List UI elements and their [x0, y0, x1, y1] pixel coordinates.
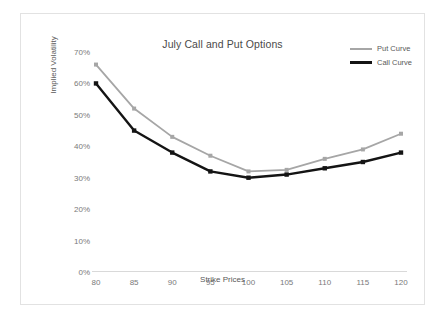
data-point-call-curve	[208, 169, 212, 173]
data-point-call-curve	[284, 172, 288, 176]
series-line-call-curve	[96, 83, 401, 177]
y-tick-label: 10%	[74, 236, 90, 245]
x-axis-title: Strike Prices	[21, 275, 424, 284]
y-tick-label: 60%	[74, 79, 90, 88]
data-point-put-curve	[247, 169, 251, 173]
y-tick-label: 50%	[74, 110, 90, 119]
data-point-call-curve	[246, 176, 250, 180]
data-point-call-curve	[132, 128, 136, 132]
data-point-put-curve	[94, 63, 98, 67]
legend-swatch-put-curve	[350, 48, 372, 50]
y-tick-label: 20%	[74, 205, 90, 214]
y-axis-title: Implied Volatility	[49, 10, 58, 120]
y-tick-label: 70%	[74, 48, 90, 57]
y-tick-label: 30%	[74, 173, 90, 182]
data-point-call-curve	[323, 166, 327, 170]
data-point-call-curve	[361, 160, 365, 164]
y-tick-label: 40%	[74, 142, 90, 151]
data-point-put-curve	[285, 168, 289, 172]
data-point-put-curve	[323, 157, 327, 161]
data-point-put-curve	[170, 135, 174, 139]
data-point-call-curve	[170, 150, 174, 154]
plot-area: 70%60%50%40%30%20%10%0% 8085909510010511…	[96, 52, 401, 272]
data-point-call-curve	[94, 81, 98, 85]
data-point-put-curve	[208, 154, 212, 158]
series-line-put-curve	[96, 65, 401, 172]
data-point-put-curve	[132, 107, 136, 111]
data-point-put-curve	[361, 147, 365, 151]
chart-frame: July Call and Put Options Put Curve Call…	[20, 13, 425, 305]
series-layer	[96, 52, 401, 272]
data-point-put-curve	[399, 132, 403, 136]
data-point-call-curve	[399, 150, 403, 154]
